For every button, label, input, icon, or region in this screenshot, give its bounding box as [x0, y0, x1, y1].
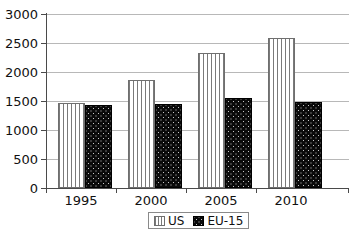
- axis-y-line: [46, 13, 47, 189]
- xtick-1: [116, 188, 117, 193]
- ytick-1500: [41, 101, 46, 102]
- ytick-label-1000: 1000: [0, 124, 38, 137]
- legend-item-eu15: EU-15: [193, 215, 243, 227]
- ytick-label-0: 0: [0, 182, 38, 195]
- bar-eu15-2000: [155, 104, 182, 188]
- ytick-label-1500: 1500: [0, 95, 38, 108]
- axis-x-line: [46, 188, 349, 189]
- ytick-500: [41, 159, 46, 160]
- chart-legend: US EU-15: [148, 212, 249, 229]
- xtick-label-2010: 2010: [256, 194, 326, 208]
- xtick-label-2000: 2000: [116, 194, 186, 208]
- gridline-2500: [46, 43, 349, 44]
- legend-label-eu15: EU-15: [207, 215, 243, 227]
- xtick-end: [348, 188, 349, 193]
- bar-us-1995: [58, 103, 85, 188]
- plot-area: [46, 14, 349, 188]
- xtick-2: [186, 188, 187, 193]
- ytick-label-2500: 2500: [0, 37, 38, 50]
- legend-item-us: US: [154, 215, 184, 227]
- xtick-label-2005: 2005: [186, 194, 256, 208]
- ytick-1000: [41, 130, 46, 131]
- xtick-3: [256, 188, 257, 193]
- ytick-label-3000: 3000: [0, 8, 38, 21]
- bar-us-2010: [268, 38, 295, 188]
- gridline-3000: [46, 14, 349, 15]
- xtick-label-1995: 1995: [46, 194, 116, 208]
- ytick-label-2000: 2000: [0, 66, 38, 79]
- bar-us-2000: [128, 80, 155, 188]
- legend-label-us: US: [168, 215, 184, 227]
- bar-eu15-2010: [295, 102, 322, 188]
- ytick-label-500: 500: [0, 153, 38, 166]
- ytick-3000: [41, 14, 46, 15]
- bar-eu15-2005: [225, 98, 252, 188]
- ytick-2500: [41, 43, 46, 44]
- bar-us-2005: [198, 53, 225, 188]
- bar-eu15-1995: [85, 105, 112, 188]
- ytick-2000: [41, 72, 46, 73]
- vertical-stripe-swatch-icon: [154, 216, 165, 226]
- black-dotted-swatch-icon: [193, 216, 204, 226]
- bar-chart: 3000 2500 2000 1500 1000 500 0 1995 2000…: [0, 0, 355, 243]
- xtick-start: [46, 188, 47, 193]
